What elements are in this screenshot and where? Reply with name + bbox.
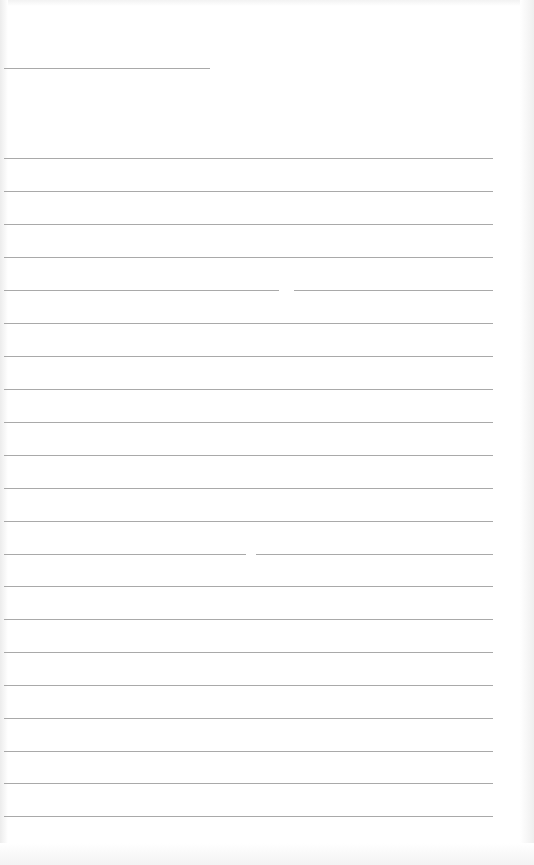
ruled-line [4, 783, 493, 784]
ruled-line [294, 290, 493, 291]
ruled-line [4, 554, 246, 555]
ruled-line [4, 389, 493, 390]
ruled-line [4, 652, 493, 653]
ruled-line [4, 422, 493, 423]
ruled-line [4, 751, 493, 752]
scan-shadow-left [0, 0, 8, 865]
ruled-line [4, 718, 493, 719]
header-line [4, 68, 210, 69]
ruled-line [4, 158, 493, 159]
ruled-line [4, 586, 493, 587]
ruled-line [4, 257, 493, 258]
scan-shadow-bottom [0, 843, 534, 865]
ruled-line [4, 521, 493, 522]
ruled-line [4, 816, 493, 817]
ruled-line [4, 290, 279, 291]
ruled-line [4, 356, 493, 357]
scan-shadow-right [520, 0, 534, 865]
ruled-line [4, 455, 493, 456]
ruled-line [4, 191, 493, 192]
ruled-line [4, 619, 493, 620]
ruled-line [4, 323, 493, 324]
ruled-line [4, 224, 493, 225]
scan-shadow-top [0, 0, 534, 6]
ruled-line [4, 685, 493, 686]
ruled-line [256, 554, 493, 555]
lined-paper-page [0, 0, 534, 865]
ruled-line [4, 488, 493, 489]
